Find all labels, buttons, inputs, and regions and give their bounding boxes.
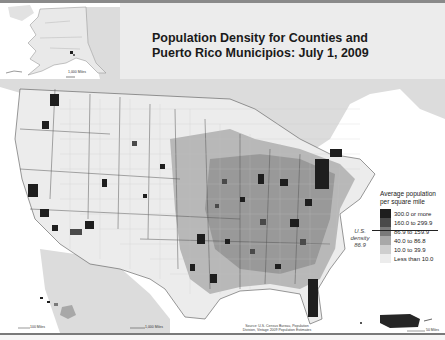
- alaska-map: [0, 3, 120, 79]
- map-frame: Population Density for Counties and Puer…: [0, 0, 445, 340]
- legend-label: 10.0 to 39.9: [394, 247, 426, 253]
- alaska-scale: 1,000 Miles: [68, 70, 86, 74]
- map-title: Population Density for Counties and Puer…: [152, 31, 369, 61]
- puerto-rico-scale-label: 50 Miles: [426, 328, 439, 332]
- legend-swatch: [380, 254, 391, 263]
- legend-title-line1: Average population: [380, 190, 445, 198]
- legend-label: 40.0 to 86.8: [394, 238, 426, 244]
- legend-swatch: [380, 227, 391, 236]
- legend-swatch: [380, 209, 391, 218]
- legend-label: 300.0 or more: [394, 211, 431, 217]
- legend-item: 160.0 to 299.9: [380, 218, 445, 227]
- us-density-divider: [372, 230, 438, 231]
- alaska-scale-label: 1,000 Miles: [68, 70, 86, 74]
- source-line2: Division, Vintage 2009 Population Estima…: [232, 328, 322, 332]
- legend-item: Less than 10.0: [380, 254, 445, 263]
- puerto-rico-scale: 50 Miles: [426, 328, 439, 332]
- us-density-line1: U.S.: [348, 228, 372, 235]
- legend-item: 10.0 to 39.9: [380, 245, 445, 254]
- legend-swatch: [380, 218, 391, 227]
- us-density-line2: density: [348, 235, 372, 242]
- legend-swatch: [380, 236, 391, 245]
- legend-item: 300.0 or more: [380, 209, 445, 218]
- title-line-2: Puerto Rico Municipios: July 1, 2009: [152, 46, 369, 61]
- legend-label: Less than 10.0: [394, 256, 433, 262]
- legend-swatch: [380, 245, 391, 254]
- us-density-label: U.S. density 86.9: [348, 228, 372, 249]
- legend: Average population per square mile 300.0…: [380, 190, 445, 263]
- choropleth-map: [0, 79, 445, 333]
- hawaii-scale-label: 100 Miles: [30, 325, 45, 329]
- bottom-rule: [0, 333, 445, 335]
- conus-scale: 1,000 Miles: [145, 325, 163, 329]
- legend-title-line2: per square mile: [380, 198, 445, 206]
- conus-map: [0, 79, 445, 333]
- legend-label: 160.0 to 299.9: [394, 220, 432, 226]
- alaska-inset: [0, 3, 121, 80]
- title-line-1: Population Density for Counties and: [152, 31, 369, 46]
- legend-item: 40.0 to 86.8: [380, 236, 445, 245]
- legend-title: Average population per square mile: [380, 190, 445, 206]
- hawaii-scale: 100 Miles: [30, 325, 45, 329]
- conus-scale-label: 1,000 Miles: [145, 325, 163, 329]
- title-box: Population Density for Counties and Puer…: [120, 3, 445, 79]
- legend-item: 86.9 to 159.9: [380, 227, 445, 236]
- source-note: Source: U.S. Census Bureau, Population D…: [232, 324, 322, 332]
- us-density-value: 86.9: [348, 242, 372, 249]
